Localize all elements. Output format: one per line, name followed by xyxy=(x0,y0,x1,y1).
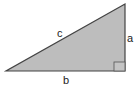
right-triangle-diagram: c a b xyxy=(0,0,134,86)
label-hypotenuse: c xyxy=(57,27,63,39)
label-horizontal-leg: b xyxy=(63,74,69,86)
right-angle-marker xyxy=(114,62,125,71)
label-vertical-leg: a xyxy=(127,32,134,44)
triangle-shape xyxy=(6,4,125,71)
